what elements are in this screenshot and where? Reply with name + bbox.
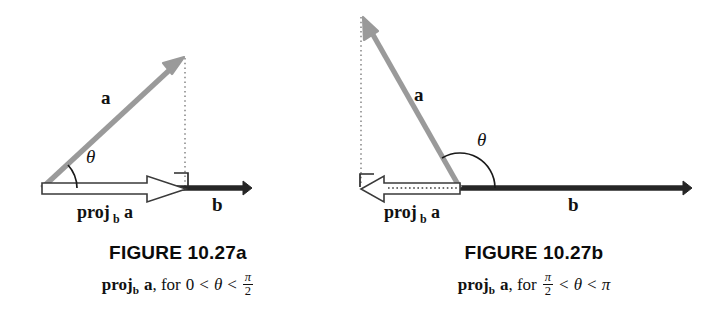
subtitle-fraction-b: π2 <box>543 271 553 298</box>
theta-label-b: θ <box>477 129 486 150</box>
vector-a-shaft-a <box>42 64 176 188</box>
figure-title-a: FIGURE 10.27a <box>0 242 356 264</box>
subtitle-frac-num-b: π <box>543 271 553 285</box>
figure-page: θ a b proj b a FIGURE 10.27a projba, for… <box>0 0 712 313</box>
vector-b-arrowhead-b <box>683 181 692 195</box>
projection-label-sub-a: b <box>113 212 120 226</box>
diagram-a: θ a b proj b a <box>0 0 356 240</box>
subtitle-proj-b: proj <box>458 275 489 294</box>
subtitle-frac-den-b: 2 <box>543 285 553 298</box>
vector-a-label-a: a <box>101 87 111 108</box>
subtitle-proj-sub-a: b <box>133 284 139 296</box>
subtitle-lower-a: 0 <box>186 275 195 294</box>
subtitle-upper-b: π <box>602 275 611 294</box>
subtitle-lt1-b: < <box>559 275 569 294</box>
figure-title-b: FIGURE 10.27b <box>356 242 712 264</box>
vector-a-label-b: a <box>414 84 424 105</box>
subtitle-proj-a: proj <box>102 275 133 294</box>
projection-label-sub-b: b <box>420 212 427 226</box>
projection-label-text-a: proj <box>77 202 110 222</box>
subtitle-lt2-b: < <box>587 275 597 294</box>
vector-b-arrowhead-a <box>243 181 252 195</box>
subtitle-frac-num-a: π <box>243 271 253 285</box>
figure-subtitle-b: projba, forπ2<θ<π <box>356 271 712 298</box>
subtitle-lt2-a: < <box>227 275 237 294</box>
projection-arrow-b <box>361 176 460 202</box>
diagram-b: θ a b proj b a <box>356 0 712 240</box>
subtitle-theta-a: θ <box>214 275 222 294</box>
subtitle-for-a: , for <box>152 275 180 294</box>
projection-label-text-b: proj <box>384 202 417 222</box>
projection-label-b: proj b a <box>384 202 440 226</box>
projection-label-vec-b: a <box>431 202 440 222</box>
subtitle-fraction-a: π2 <box>243 271 253 298</box>
subtitle-proj-sub-b: b <box>489 284 495 296</box>
projection-arrow-a <box>42 176 186 202</box>
projection-label-a: proj b a <box>77 202 133 226</box>
subtitle-lt1-a: < <box>199 275 209 294</box>
projection-label-vec-a: a <box>124 202 133 222</box>
subtitle-frac-den-a: 2 <box>243 285 253 298</box>
figure-panel-a: θ a b proj b a FIGURE 10.27a projba, for… <box>0 0 356 313</box>
figure-panel-b: θ a b proj b a FIGURE 10.27b projba, for… <box>356 0 712 313</box>
vector-b-label-b: b <box>568 194 579 215</box>
theta-label-a: θ <box>86 146 95 167</box>
vector-b-label-a: b <box>212 194 223 215</box>
figure-subtitle-a: projba, for0<θ<π2 <box>0 271 356 298</box>
subtitle-theta-b: θ <box>574 275 582 294</box>
subtitle-for-b: , for <box>508 275 536 294</box>
vector-a-shaft-b <box>372 33 460 188</box>
